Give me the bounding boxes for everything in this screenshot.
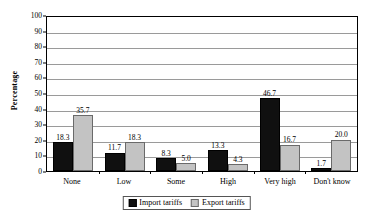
x-axis-tickmark xyxy=(202,171,203,174)
plot-area: 18.335.711.718.38.35.013.34.346.716.71.7… xyxy=(46,16,358,172)
x-axis-label: High xyxy=(202,177,254,186)
x-axis-tickmark xyxy=(99,171,100,174)
bar-value-label: 46.7 xyxy=(263,90,276,98)
bar-export-tariffs[interactable] xyxy=(280,145,300,171)
y-axis-tick-30: 30 xyxy=(14,121,42,129)
bar-slot: 46.7 xyxy=(260,17,280,171)
bar-import-tariffs[interactable] xyxy=(260,98,280,171)
bar-slot: 35.7 xyxy=(73,17,93,171)
bar-value-label: 18.3 xyxy=(128,134,141,142)
bar-group: 8.35.0 xyxy=(150,17,202,171)
import-tariffs-swatch xyxy=(128,199,136,207)
bar-group: 1.720.0 xyxy=(305,17,357,171)
y-axis-tick-0: 0 xyxy=(14,168,42,176)
legend-item[interactable]: Import tariffs xyxy=(128,198,182,207)
y-axis-tick-60: 60 xyxy=(14,75,42,83)
bar-value-label: 4.3 xyxy=(233,156,242,164)
bar-import-tariffs[interactable] xyxy=(311,168,331,171)
bar-slot: 20.0 xyxy=(331,17,351,171)
bar-group: 11.718.3 xyxy=(99,17,151,171)
bars-layer: 18.335.711.718.38.35.013.34.346.716.71.7… xyxy=(47,17,357,171)
x-axis-label: Don't know xyxy=(306,177,358,186)
bar-group: 13.34.3 xyxy=(202,17,254,171)
bar-slot: 5.0 xyxy=(176,17,196,171)
bar-slot: 18.3 xyxy=(53,17,73,171)
y-axis-tick-10: 10 xyxy=(14,153,42,161)
y-axis-tick-40: 40 xyxy=(14,106,42,114)
x-axis-label: Some xyxy=(150,177,202,186)
bar-slot: 4.3 xyxy=(228,17,248,171)
bar-value-label: 20.0 xyxy=(335,131,348,139)
bar-group: 46.716.7 xyxy=(254,17,306,171)
export-tariffs-swatch xyxy=(191,199,199,207)
bar-import-tariffs[interactable] xyxy=(105,153,125,171)
legend-label: Export tariffs xyxy=(202,198,245,207)
bar-value-label: 16.7 xyxy=(283,136,296,144)
bar-export-tariffs[interactable] xyxy=(73,115,93,171)
bar-import-tariffs[interactable] xyxy=(53,142,73,171)
bar-value-label: 8.3 xyxy=(161,150,170,158)
bar-slot: 11.7 xyxy=(105,17,125,171)
bar-value-label: 11.7 xyxy=(108,144,121,152)
bar-export-tariffs[interactable] xyxy=(331,140,351,171)
bar-slot: 18.3 xyxy=(125,17,145,171)
bar-export-tariffs[interactable] xyxy=(228,164,248,171)
y-axis-tick-20: 20 xyxy=(14,137,42,145)
bar-import-tariffs[interactable] xyxy=(156,158,176,171)
bar-value-label: 13.3 xyxy=(211,142,224,150)
y-axis-tick-80: 80 xyxy=(14,43,42,51)
bar-value-label: 35.7 xyxy=(76,107,89,115)
y-axis-tick-labels: 1009080706050403020100 xyxy=(14,16,42,172)
x-axis-category-labels: NoneLowSomeHighVery highDon't know xyxy=(46,177,358,186)
y-axis-tick-100: 100 xyxy=(14,12,42,20)
bar-group: 18.335.7 xyxy=(47,17,99,171)
bar-export-tariffs[interactable] xyxy=(176,163,196,171)
bar-value-label: 1.7 xyxy=(317,160,326,168)
legend-label: Import tariffs xyxy=(139,198,182,207)
bar-slot: 16.7 xyxy=(280,17,300,171)
bar-export-tariffs[interactable] xyxy=(125,142,145,171)
y-axis-tick-50: 50 xyxy=(14,90,42,98)
bar-import-tariffs[interactable] xyxy=(208,150,228,171)
chart-legend: Import tariffsExport tariffs xyxy=(122,196,250,210)
y-axis-tick-70: 70 xyxy=(14,59,42,67)
x-axis-label: None xyxy=(46,177,98,186)
bar-slot: 13.3 xyxy=(208,17,228,171)
x-axis-tickmark xyxy=(305,171,306,174)
bar-slot: 8.3 xyxy=(156,17,176,171)
x-axis-label: Very high xyxy=(254,177,306,186)
x-axis-label: Low xyxy=(98,177,150,186)
y-axis-tick-90: 90 xyxy=(14,28,42,36)
x-axis-tickmark xyxy=(254,171,255,174)
legend-item[interactable]: Export tariffs xyxy=(191,198,245,207)
bar-value-label: 18.3 xyxy=(56,134,69,142)
bar-slot: 1.7 xyxy=(311,17,331,171)
x-axis-tickmark xyxy=(150,171,151,174)
bar-value-label: 5.0 xyxy=(181,155,190,163)
bar-chart: Percentage 1009080706050403020100 18.335… xyxy=(0,0,373,221)
